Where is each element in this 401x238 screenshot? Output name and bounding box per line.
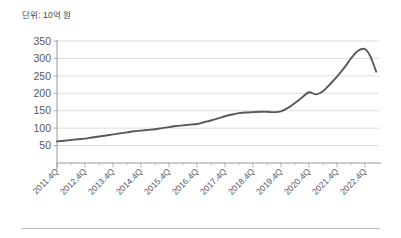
- x-axis-tick-label: 2016.4Q: [170, 166, 201, 197]
- x-axis-ticks: [57, 163, 365, 168]
- data-series-line: [57, 49, 376, 142]
- y-axis-tick-label: 350: [33, 35, 51, 47]
- y-axis-tick-labels: 50100150200250300350: [33, 35, 51, 152]
- line-chart-plot: 50100150200250300350 2011.4Q2012.4Q2013.…: [0, 0, 401, 238]
- x-axis-tick-label: 2013.4Q: [86, 166, 117, 197]
- x-axis-tick-label: 2021.4Q: [310, 166, 341, 197]
- x-axis-tick-label: 2020.4Q: [282, 166, 313, 197]
- y-axis-tick-label: 200: [33, 87, 51, 99]
- chart-figure: 단위: 10억 원 50100150200250300350 2011.4Q20…: [0, 0, 401, 238]
- y-axis-tick-label: 50: [39, 139, 51, 151]
- x-axis-tick-label: 2018.4Q: [226, 166, 257, 197]
- x-axis-tick-label: 2014.4Q: [114, 166, 145, 197]
- y-axis-tick-label: 250: [33, 70, 51, 82]
- x-axis-tick-label: 2015.4Q: [142, 166, 173, 197]
- bottom-divider: [22, 228, 380, 229]
- x-axis-tick-label: 2017.4Q: [198, 166, 229, 197]
- x-axis-tick-label: 2011.4Q: [30, 166, 60, 196]
- x-axis-tick-label: 2019.4Q: [254, 166, 285, 197]
- y-axis-tick-label: 300: [33, 52, 51, 64]
- x-axis-tick-label: 2012.4Q: [58, 166, 89, 197]
- x-axis-tick-label: 2022.4Q: [338, 166, 369, 197]
- gridlines-group: [54, 41, 380, 146]
- x-axis-tick-labels: 2011.4Q2012.4Q2013.4Q2014.4Q2015.4Q2016.…: [30, 166, 368, 197]
- y-axis-tick-label: 150: [33, 104, 51, 116]
- y-axis-tick-label: 100: [33, 122, 51, 134]
